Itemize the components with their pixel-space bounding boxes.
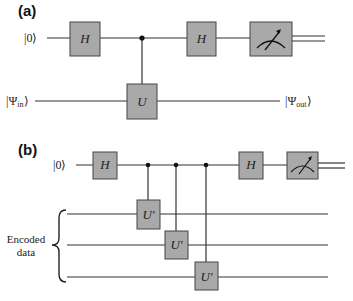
quantum-circuit-diagram: (a) |0⟩ |Ψin⟩ |Ψout⟩ H U H (b) |0⟩ H xyxy=(0,0,353,301)
panel-a-input-bottom: |Ψin⟩ xyxy=(6,94,29,109)
encoded-data-label-line1: Encoded xyxy=(7,233,46,245)
meter-icon xyxy=(287,152,318,179)
control-dot xyxy=(146,163,151,168)
panel-b-input-top: |0⟩ xyxy=(53,158,66,172)
svg-text:H: H xyxy=(196,31,207,46)
meter-icon xyxy=(250,22,292,56)
svg-text:U′: U′ xyxy=(142,207,154,222)
panel-a-input-top: |0⟩ xyxy=(24,31,37,45)
panel-b-u-gate-2: U′ xyxy=(165,231,188,259)
svg-text:U′: U′ xyxy=(170,237,182,252)
panel-a-h-gate-2: H xyxy=(187,22,216,56)
panel-a-output-bottom: |Ψout⟩ xyxy=(285,94,312,109)
panel-a-label: (a) xyxy=(18,2,36,19)
encoded-data-label-line2: data xyxy=(17,246,35,258)
brace-icon xyxy=(52,210,66,282)
control-dot xyxy=(174,163,179,168)
svg-text:H: H xyxy=(245,157,256,172)
control-dot xyxy=(139,35,144,40)
panel-b-u-gate-3: U′ xyxy=(195,262,218,290)
panel-b-h-gate-1: H xyxy=(93,152,117,179)
svg-text:U: U xyxy=(137,94,148,109)
svg-text:H: H xyxy=(99,157,110,172)
panel-a-u-gate: U xyxy=(127,84,157,119)
svg-text:H: H xyxy=(79,31,90,46)
svg-text:U′: U′ xyxy=(200,269,212,284)
panel-a-h-gate-1: H xyxy=(70,22,100,56)
panel-b-u-gate-1: U′ xyxy=(137,200,160,229)
control-dot xyxy=(204,163,209,168)
panel-b-label: (b) xyxy=(18,141,37,158)
panel-b-h-gate-2: H xyxy=(239,152,263,179)
